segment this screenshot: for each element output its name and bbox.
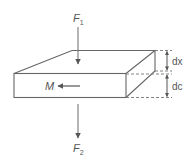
slab-side-face [126, 51, 155, 98]
force-top-label: F1 [73, 12, 84, 26]
dc-label: dc [172, 81, 183, 92]
force-bottom-label: F2 [73, 142, 84, 156]
slab-diagram: F1 F2 M dx dc [0, 0, 192, 166]
moment-label: M [45, 80, 55, 92]
dx-label: dx [172, 56, 183, 67]
slab-top-face [14, 51, 155, 74]
